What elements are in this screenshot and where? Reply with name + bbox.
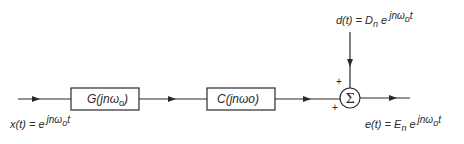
arrow-down-icon bbox=[347, 59, 353, 67]
c-to-sum-line bbox=[275, 96, 340, 102]
g-to-c-line bbox=[139, 96, 207, 102]
block-c: C(jnωo) bbox=[207, 88, 275, 110]
plus-sign-left: + bbox=[332, 102, 338, 113]
arrow-right-icon bbox=[303, 96, 311, 102]
plus-sign-top: + bbox=[336, 76, 342, 87]
output-label: e(t) = En ejnωot bbox=[365, 114, 442, 133]
block-diagram: G(jnωo) C(jnωo) Σ + + x(t) = ejnωot d(t)… bbox=[0, 0, 464, 144]
input-signal-line bbox=[18, 96, 71, 102]
summing-junction: Σ + + bbox=[332, 76, 360, 113]
arrow-right-icon bbox=[168, 96, 176, 102]
input-label: x(t) = ejnωot bbox=[9, 114, 71, 130]
arrow-right-icon bbox=[32, 96, 40, 102]
disturbance-line bbox=[347, 32, 353, 88]
block-g: G(jnωo) bbox=[71, 88, 139, 110]
output-signal-line bbox=[360, 95, 410, 101]
block-c-label: C(jnωo) bbox=[217, 92, 259, 106]
sigma-symbol: Σ bbox=[345, 91, 354, 106]
block-g-label: G(jnωo) bbox=[87, 92, 128, 108]
arrow-right-icon bbox=[389, 95, 397, 101]
disturbance-label: d(t) = Dn ejnωot bbox=[336, 10, 414, 29]
